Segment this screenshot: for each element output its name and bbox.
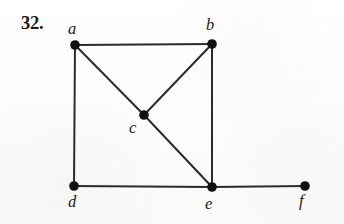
problem-number: 32. [21,14,44,33]
graph-edge-a-d [74,45,75,186]
graph-edge-e-f [212,186,305,187]
graph-edge-a-b [75,44,212,45]
graph-vertex-f [300,181,310,191]
graph-edge-d-e [74,186,212,187]
vertex-label-d: d [68,194,76,211]
vertex-layer [69,39,310,192]
vertex-label-f: f [299,193,304,210]
graph-edge-b-c [144,44,212,115]
vertex-label-c: c [129,120,136,137]
graph-vertex-c [139,110,149,120]
graph-diagram [0,0,344,224]
graph-vertex-d [69,181,79,191]
graph-vertex-e [207,182,217,192]
graph-edge-c-e [144,115,212,187]
graph-edge-a-c [75,45,144,115]
figure-page: 32. abcdef [0,0,344,224]
vertex-label-e: e [205,196,212,213]
vertex-label-a: a [68,21,76,38]
vertex-label-b: b [206,17,214,34]
graph-vertex-a [70,40,80,50]
edge-layer [74,44,305,187]
graph-vertex-b [207,39,217,49]
